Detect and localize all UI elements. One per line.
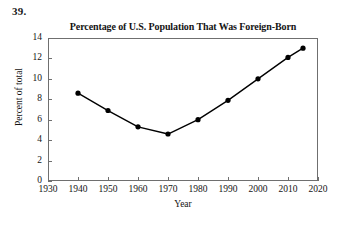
x-tick-mark: [228, 177, 229, 181]
y-tick-mark: [48, 140, 52, 141]
x-tick-mark: [288, 177, 289, 181]
chart-figure: 39. Percentage of U.S. Population That W…: [0, 0, 341, 229]
x-tick-label: 2020: [298, 184, 338, 194]
data-point: [255, 76, 260, 81]
y-axis-label: Percent of total: [14, 42, 24, 152]
x-tick-mark: [258, 177, 259, 181]
y-tick-mark: [48, 99, 52, 100]
x-tick-mark: [168, 177, 169, 181]
y-tick-mark: [48, 38, 52, 39]
x-tick-mark: [108, 177, 109, 181]
y-tick-mark: [48, 58, 52, 59]
data-point: [165, 131, 170, 136]
x-axis-label: Year: [48, 199, 318, 209]
data-point: [105, 108, 110, 113]
data-point: [75, 91, 80, 96]
chart-plot: [48, 38, 318, 181]
data-point: [300, 46, 305, 51]
data-point: [225, 98, 230, 103]
x-tick-mark: [78, 177, 79, 181]
y-tick-label: 2: [2, 155, 42, 165]
y-tick-mark: [48, 120, 52, 121]
data-line: [78, 48, 303, 134]
data-point: [195, 117, 200, 122]
x-tick-mark: [48, 177, 49, 181]
chart-title: Percentage of U.S. Population That Was F…: [48, 21, 318, 32]
y-tick-mark: [48, 161, 52, 162]
y-tick-mark: [48, 79, 52, 80]
y-tick-mark: [48, 181, 52, 182]
x-tick-mark: [318, 177, 319, 181]
x-tick-mark: [198, 177, 199, 181]
problem-number: 39.: [12, 5, 26, 17]
data-point: [285, 55, 290, 60]
x-tick-mark: [138, 177, 139, 181]
data-point: [135, 124, 140, 129]
y-tick-label: 14: [2, 32, 42, 42]
